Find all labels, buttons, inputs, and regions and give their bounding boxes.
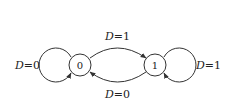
diagram-canvas: 0 1 D=0 D=1 D=0 D=1 — [0, 0, 233, 103]
state-1-label: 1 — [152, 60, 158, 71]
state-diagram: 0 1 D=0 D=1 D=0 D=1 — [0, 0, 233, 103]
state-0: 0 — [69, 54, 91, 76]
label-self-loop-1: D=1 — [195, 59, 221, 72]
self-loop-1 — [164, 48, 196, 82]
label-transition-0-to-1: D=1 — [104, 30, 130, 43]
label-self-loop-0: D=0 — [14, 59, 40, 72]
transition-0-to-1 — [90, 48, 146, 58]
self-loop-0 — [39, 48, 71, 82]
state-0-label: 0 — [77, 60, 83, 71]
label-transition-1-to-0: D=0 — [104, 88, 130, 101]
state-1: 1 — [144, 54, 166, 76]
transition-1-to-0 — [90, 72, 146, 82]
